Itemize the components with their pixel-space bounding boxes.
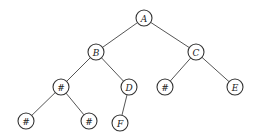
node-label: A <box>140 14 148 24</box>
tree-node-f: F <box>112 115 128 131</box>
tree-node-c: C <box>188 44 204 60</box>
node-label: # <box>85 117 93 127</box>
tree-node-c1: # <box>157 79 173 95</box>
edge-a-b <box>103 23 138 48</box>
node-label: B <box>92 48 100 58</box>
tree-node-e: E <box>227 79 243 95</box>
node-label: # <box>22 117 30 127</box>
edge-b-b1 <box>67 58 91 82</box>
edge-a-c <box>151 22 190 47</box>
edge-d-f <box>122 95 127 115</box>
tree-node-l1: # <box>18 113 34 129</box>
node-label: # <box>161 83 169 93</box>
edge-b-d <box>101 58 123 81</box>
edge-c-c1 <box>170 58 190 81</box>
binary-tree-diagram: ABC#D#E##F <box>0 0 259 140</box>
edge-b1-l2 <box>66 93 84 115</box>
node-label: E <box>231 83 239 93</box>
node-label: C <box>193 48 200 58</box>
node-label: F <box>116 119 124 129</box>
node-label: # <box>57 83 65 93</box>
node-label: D <box>124 83 132 93</box>
tree-node-b: B <box>88 44 104 60</box>
tree-node-b1: # <box>53 79 69 95</box>
tree-node-l2: # <box>81 113 97 129</box>
edge-b1-l1 <box>32 93 56 116</box>
tree-edges <box>32 22 229 115</box>
edge-c-e <box>202 57 229 81</box>
tree-node-d: D <box>121 79 137 95</box>
tree-canvas: ABC#D#E##F <box>0 0 259 140</box>
tree-node-a: A <box>136 10 152 26</box>
